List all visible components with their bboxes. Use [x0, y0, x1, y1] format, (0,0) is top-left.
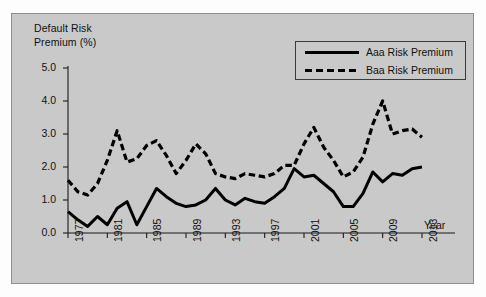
- x-axis-tick-label: 2009: [387, 219, 399, 242]
- x-axis-tick-label: 2001: [309, 219, 321, 242]
- legend-label-aaa: Aaa Risk Premium: [366, 46, 453, 58]
- y-axis-tick-label: 1.0: [30, 193, 56, 205]
- y-axis-tick-label: 2.0: [30, 160, 56, 172]
- chart-figure: Default Risk Premium (%) Year Aaa Risk P…: [0, 0, 486, 297]
- y-axis-tick-label: 3.0: [30, 127, 56, 139]
- series-line-aaa: [68, 167, 422, 226]
- x-axis-tick-label: 1985: [151, 219, 163, 242]
- chart-legend: Aaa Risk Premium Baa Risk Premium: [295, 41, 466, 80]
- x-axis-tick-label: 2005: [348, 219, 360, 242]
- y-axis-tick-label: 5.0: [30, 61, 56, 73]
- legend-entry-aaa: Aaa Risk Premium: [296, 43, 465, 61]
- x-axis-tick-label: 1997: [269, 219, 281, 242]
- x-axis-tick-label: 1977: [73, 219, 85, 242]
- y-axis-tick-label: 0.0: [30, 226, 56, 238]
- legend-entry-baa: Baa Risk Premium: [296, 61, 465, 79]
- legend-key-solid-icon: [305, 47, 359, 58]
- x-axis-tick-label: 1981: [112, 219, 124, 242]
- x-axis-tick-label: 2013: [427, 219, 439, 242]
- y-axis-tick-label: 4.0: [30, 94, 56, 106]
- x-axis-tick-label: 1989: [191, 219, 203, 242]
- x-axis-tick-label: 1993: [230, 219, 242, 242]
- legend-label-baa: Baa Risk Premium: [366, 64, 453, 76]
- legend-key-dashed-icon: [305, 65, 359, 76]
